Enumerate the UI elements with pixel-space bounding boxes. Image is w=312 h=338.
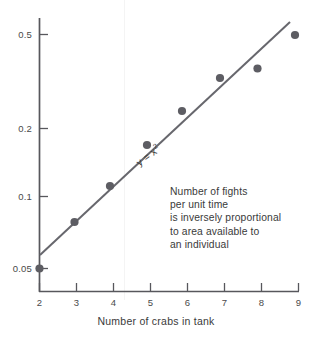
data-point [291,31,299,39]
data-point [216,74,224,82]
y-tick-label: 0.2 [0,124,32,134]
x-tick-label: 7 [214,298,235,308]
y-tick-label: 0.5 [0,30,32,40]
y-tick-label: 0.1 [0,192,32,202]
data-point [178,107,186,115]
x-axis-title: Number of crabs in tank [0,315,312,327]
annotation-line: is inversely proportional [170,211,310,224]
annotation-text-block: Number of fights per unit time is invers… [170,185,310,251]
x-axis-ticks [40,283,299,291]
x-tick-label: 5 [140,298,161,308]
annotation-line: Number of fights [170,185,310,198]
data-point [253,64,261,72]
annotation-line: to area available to [170,225,310,238]
data-point [70,218,78,226]
x-tick-label: 9 [288,298,309,308]
annotation-line: per unit time [170,198,310,211]
x-tick-label: 2 [29,298,50,308]
plot-canvas [0,0,312,338]
x-tick-label: 4 [103,298,124,308]
x-tick-label: 3 [66,298,87,308]
y-axis-ticks [40,35,48,269]
annotation-line: an individual [170,238,310,251]
x-tick-label: 8 [251,298,272,308]
data-point [35,264,43,272]
x-tick-label: 6 [177,298,198,308]
chart-figure: 0.5 0.2 0.1 0.05 2 3 4 5 6 7 8 9 y = x2 … [0,0,312,338]
y-tick-label: 0.05 [0,264,32,274]
data-point [106,182,114,190]
